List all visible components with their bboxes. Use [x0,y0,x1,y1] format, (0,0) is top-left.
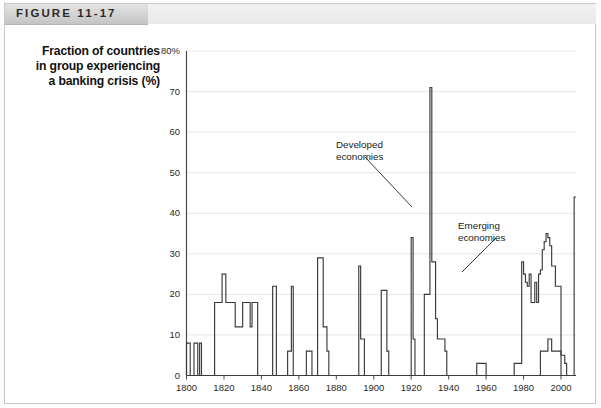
x-axis-tick-label: 1960 [466,382,506,393]
x-axis-tick-label: 2000 [541,382,581,393]
y-axis-tick-label: 80% [146,45,180,56]
y-axis-tick-label: 70 [150,86,180,97]
figure-label: FIGURE 11-17 [16,7,117,19]
y-axis-title-line-1: Fraction of countries [18,44,160,59]
y-axis-tick-label: 10 [150,329,180,340]
x-axis-tick-label: 1940 [429,382,469,393]
x-axis-tick-label: 1880 [316,382,356,393]
y-axis-tick-label: 60 [150,126,180,137]
annotation-emerging-economies: Emerging economies [458,220,505,243]
series-line [187,88,577,376]
x-axis-tick-label: 1820 [204,382,244,393]
annotation-emerging-line-1: Emerging [458,220,505,232]
y-axis-tick-label: 30 [150,248,180,259]
banking-crisis-line-chart [166,44,578,384]
x-axis-tick-label: 1920 [391,382,431,393]
y-axis-title: Fraction of countries in group experienc… [18,44,160,90]
x-axis-tick-label: 1900 [354,382,394,393]
y-axis-tick-label: 40 [150,207,180,218]
annotation-developed-economies: Developed economies [336,139,383,162]
y-axis-tick-label: 20 [150,288,180,299]
figure-root: FIGURE 11-17 Fraction of countries in gr… [0,0,601,408]
y-axis-tick-label: 0 [150,370,180,381]
annotation-developed-line-2: economies [336,151,383,163]
chart-plot-area: 01020304050607080% 180018201840186018801… [166,44,578,384]
leader-line-developed [365,157,412,207]
y-axis-tick-label: 50 [150,167,180,178]
x-axis-tick-label: 1860 [279,382,319,393]
x-axis-tick-label: 1840 [241,382,281,393]
annotation-developed-line-1: Developed [336,139,383,151]
x-axis-tick-label: 1800 [167,382,207,393]
y-axis-title-line-2: in group experiencing [18,59,160,74]
header-band-background [148,4,596,24]
x-axis-tick-label: 1980 [504,382,544,393]
y-axis-title-line-3: a banking crisis (%) [18,74,160,89]
series-lines [187,88,577,376]
annotation-emerging-line-2: economies [458,232,505,244]
